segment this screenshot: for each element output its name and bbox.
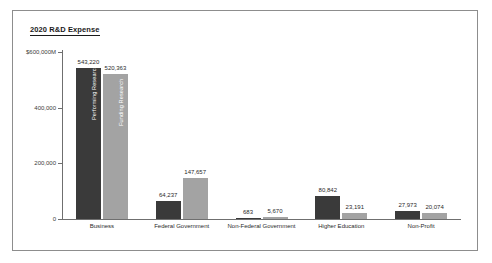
x-axis-line — [62, 219, 461, 220]
y-tick-label: 200,000 — [34, 160, 56, 166]
bar-series-label: Funding Research — [118, 79, 124, 126]
bar-value-label: 543,220 — [78, 59, 100, 65]
chart-title: 2020 R&D Expense — [30, 25, 100, 36]
category-label: Federal Government — [154, 223, 209, 229]
bar-series-label: Performing Research — [91, 65, 97, 120]
bar-value-label: 64,237 — [159, 192, 177, 198]
bar[interactable] — [103, 74, 128, 219]
bar-value-label: 27,973 — [398, 202, 416, 208]
bar-value-label: 80,842 — [319, 187, 337, 193]
bar-value-label: 20,074 — [425, 204, 443, 210]
bar-value-label: 5,670 — [267, 208, 282, 214]
y-tick-mark — [58, 163, 62, 164]
bar[interactable] — [395, 211, 420, 219]
bar-value-label: 23,191 — [346, 204, 364, 210]
bar-value-label: 683 — [243, 209, 253, 215]
y-tick-mark — [58, 108, 62, 109]
bar[interactable] — [342, 213, 367, 219]
y-tick-label: $600,000M — [26, 49, 56, 55]
y-tick-mark — [58, 219, 62, 220]
category-label: Non-Federal Government — [227, 223, 295, 229]
y-tick-label: 0 — [53, 216, 56, 222]
bar[interactable] — [315, 196, 340, 219]
bar[interactable] — [183, 178, 208, 219]
bar[interactable] — [76, 68, 101, 219]
y-tick-mark — [58, 52, 62, 53]
y-tick-label: 400,000 — [34, 105, 56, 111]
bar-value-label: 147,657 — [184, 169, 206, 175]
bar[interactable] — [236, 218, 261, 219]
category-label: Non-Profit — [408, 223, 435, 229]
bar-value-label: 520,363 — [105, 65, 127, 71]
bar[interactable] — [156, 201, 181, 219]
y-axis-line — [62, 50, 63, 220]
bar[interactable] — [263, 217, 288, 219]
category-label: Business — [90, 223, 114, 229]
category-label: Higher Education — [318, 223, 364, 229]
bar[interactable] — [422, 213, 447, 219]
